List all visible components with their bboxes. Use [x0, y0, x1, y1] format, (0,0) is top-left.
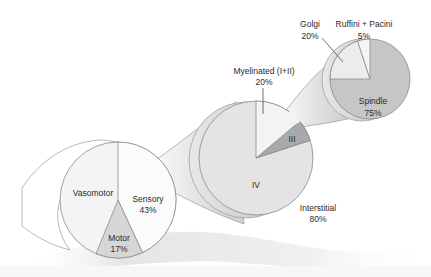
pie2-myelinated-label: Myelinated (I+II)	[233, 66, 294, 76]
pie2-interstitial-label: Interstitial	[300, 203, 336, 213]
pie1-sensory-pct: 43%	[139, 205, 156, 215]
pie3-ruffini-label: Ruffini + Pacini	[336, 19, 393, 29]
pie3-ruffini-pct: 5%	[358, 31, 371, 41]
pie3-spindle-pct: 75%	[364, 108, 381, 118]
pie3-golgi-label: Golgi	[300, 19, 320, 29]
pie1-motor-label: Motor	[108, 233, 130, 243]
pie2-interstitial-pct: 80%	[309, 214, 326, 224]
nested-pie-diagram: Vasomotor Sensory 43% Motor 17% III IV M…	[0, 0, 431, 277]
pie1-sensory-label: Sensory	[132, 194, 164, 204]
pie2-myelinated-pct: 20%	[255, 77, 272, 87]
diagram-stage: Vasomotor Sensory 43% Motor 17% III IV M…	[0, 0, 431, 277]
pie1-vasomotor-label: Vasomotor	[73, 188, 114, 198]
pie2-iv-label: IV	[252, 180, 260, 190]
pie-1: Vasomotor Sensory 43% Motor 17%	[60, 142, 176, 258]
pie3-golgi-pct: 20%	[301, 31, 318, 41]
floor-band	[0, 266, 431, 277]
pie3-spindle-label: Spindle	[359, 96, 388, 106]
pie2-iii-label: III	[288, 134, 295, 144]
pie1-motor-pct: 17%	[110, 244, 127, 254]
